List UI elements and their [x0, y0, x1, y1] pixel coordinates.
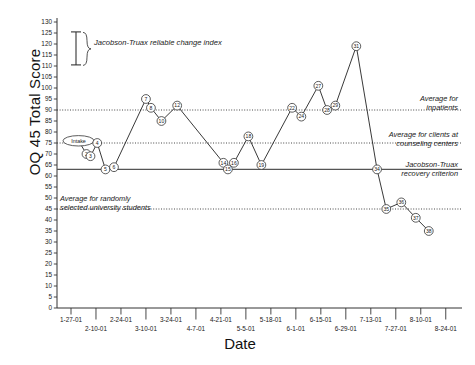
- x-axis-title-text: Date: [224, 335, 256, 352]
- svg-text:15: 15: [225, 166, 231, 172]
- data-point: 36: [397, 198, 406, 207]
- svg-text:8: 8: [150, 105, 153, 111]
- svg-text:31: 31: [353, 43, 359, 49]
- y-tick-label: 5: [20, 293, 52, 300]
- y-tick-label: 85: [20, 117, 52, 124]
- y-tick-label: 110: [20, 62, 52, 69]
- data-point: 19: [257, 161, 266, 170]
- x-tick-label: 4-21-01: [199, 316, 243, 323]
- svg-text:3: 3: [89, 153, 92, 159]
- data-point: 4: [93, 139, 102, 148]
- data-point: 35: [382, 205, 391, 214]
- x-tick-label: 1-27-01: [49, 316, 93, 323]
- y-tick-label: 30: [20, 238, 52, 245]
- data-point: 6: [110, 163, 119, 172]
- annotation-university: Average for randomly selected university…: [60, 195, 151, 212]
- annotation-recovery-line2: recovery criterion: [300, 170, 458, 179]
- data-point: 24: [297, 112, 306, 121]
- y-tick-label: 50: [20, 194, 52, 201]
- svg-text:12: 12: [174, 102, 180, 108]
- chart-figure: Intake2345678101214151618192224272829313…: [0, 0, 475, 365]
- annotation-recovery: Jacobson-Truax recovery criterion: [300, 161, 458, 178]
- x-tick-label: 5-18-01: [249, 316, 293, 323]
- svg-text:18: 18: [246, 133, 252, 139]
- data-point: 8: [147, 103, 156, 112]
- x-tick-label: 6-15-01: [299, 316, 343, 323]
- svg-text:22: 22: [289, 105, 295, 111]
- y-tick-label: 75: [20, 139, 52, 146]
- legend-label: Jacobson-Truax reliable change index: [94, 38, 222, 47]
- y-tick-label: 80: [20, 128, 52, 135]
- y-tick-label: 95: [20, 95, 52, 102]
- y-tick-label: 60: [20, 172, 52, 179]
- plot-area: Intake2345678101214151618192224272829313…: [0, 0, 475, 365]
- y-tick-label: 65: [20, 161, 52, 168]
- data-point: Intake: [63, 136, 94, 146]
- x-tick-label: 6-29-01: [324, 325, 368, 332]
- data-point: 37: [411, 213, 420, 222]
- annotation-university-line2: selected university students: [60, 204, 151, 213]
- y-tick-label: 20: [20, 260, 52, 267]
- svg-text:35: 35: [383, 206, 389, 212]
- y-tick-label: 45: [20, 205, 52, 212]
- x-tick-label: 6-1-01: [274, 325, 318, 332]
- annotation-inpatients: Average for inpatients: [300, 95, 458, 112]
- y-tick-label: 40: [20, 216, 52, 223]
- svg-text:Intake: Intake: [71, 138, 86, 144]
- y-tick-label: 105: [20, 73, 52, 80]
- data-point: 31: [352, 42, 361, 51]
- svg-text:37: 37: [413, 215, 419, 221]
- svg-text:24: 24: [299, 113, 305, 119]
- y-tick-label: 100: [20, 84, 52, 91]
- x-tick-label: 4-7-01: [174, 325, 218, 332]
- legend-brace-icon: [83, 32, 91, 65]
- x-tick-label: 7-27-01: [374, 325, 418, 332]
- data-point: 27: [314, 81, 323, 90]
- svg-text:14: 14: [221, 160, 227, 166]
- data-point: 10: [157, 117, 166, 126]
- data-point: 22: [288, 103, 297, 112]
- data-point: 3: [86, 152, 95, 161]
- annotation-counseling: Average for clients at counseling center…: [300, 131, 458, 148]
- x-tick-label: 7-13-01: [349, 316, 393, 323]
- x-axis-title: Date: [180, 335, 300, 353]
- svg-text:5: 5: [104, 166, 107, 172]
- legend-error-bar-icon: [71, 32, 91, 66]
- svg-text:6: 6: [113, 164, 116, 170]
- y-tick-label: 15: [20, 271, 52, 278]
- x-tick-label: 8-10-01: [399, 316, 443, 323]
- data-point: 16: [229, 158, 238, 167]
- y-tick-label: 115: [20, 51, 52, 58]
- svg-text:19: 19: [259, 162, 265, 168]
- y-tick-label: 25: [20, 249, 52, 256]
- y-tick-label: 10: [20, 282, 52, 289]
- y-tick-label: 90: [20, 106, 52, 113]
- svg-text:7: 7: [145, 96, 148, 102]
- data-point: 38: [424, 227, 433, 236]
- svg-text:27: 27: [316, 83, 322, 89]
- x-tick-label: 5-5-01: [224, 325, 268, 332]
- y-tick-label: 70: [20, 150, 52, 157]
- x-tick-label: 3-10-01: [124, 325, 168, 332]
- svg-text:10: 10: [159, 118, 165, 124]
- data-point: 5: [101, 165, 110, 174]
- annotation-inpatients-line2: inpatients: [300, 104, 458, 113]
- x-tick-label: 2-24-01: [99, 316, 143, 323]
- y-tick-label: 130: [20, 18, 52, 25]
- y-tick-label: 55: [20, 183, 52, 190]
- x-tick-label: 8-24-01: [424, 325, 468, 332]
- svg-text:16: 16: [231, 160, 237, 166]
- y-tick-label: 120: [20, 40, 52, 47]
- svg-text:36: 36: [398, 199, 404, 205]
- svg-text:4: 4: [96, 140, 99, 146]
- svg-text:38: 38: [426, 228, 432, 234]
- data-point: 12: [173, 101, 182, 110]
- y-tick-label: 0: [20, 304, 52, 311]
- x-tick-label: 3-24-01: [149, 316, 193, 323]
- annotation-counseling-line2: counseling centers: [300, 140, 458, 149]
- y-tick-label: 125: [20, 29, 52, 36]
- data-point: 7: [142, 95, 151, 104]
- data-point: 18: [244, 132, 253, 141]
- x-tick-label: 2-10-01: [74, 325, 118, 332]
- y-tick-label: 35: [20, 227, 52, 234]
